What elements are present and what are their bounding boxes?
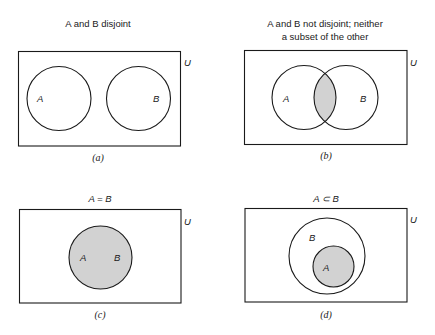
panel-a-title: A and B disjoint — [65, 18, 131, 29]
set-a-equals-b-circle — [69, 226, 132, 289]
set-b-label: B — [114, 252, 121, 263]
panel-d: A ⊂ B U B A (d) — [245, 193, 417, 321]
set-b-circle — [107, 67, 171, 131]
panel-c-sublabel: (c) — [94, 309, 106, 321]
set-b-label: B — [309, 232, 316, 243]
set-b-label: B — [153, 93, 160, 104]
universe-label: U — [410, 57, 417, 68]
set-a-circle — [313, 246, 354, 287]
universe-label: U — [184, 57, 191, 68]
universe-label: U — [184, 216, 191, 227]
set-b-label: B — [360, 93, 367, 104]
panel-c-title: A = B — [87, 193, 112, 204]
venn-diagrams-figure: A and B disjoint U A B (a) A and B not d… — [0, 0, 435, 335]
panel-b-title-line2: a subset of the other — [282, 31, 369, 42]
universe-label: U — [410, 214, 417, 225]
panel-b-title-line1: A and B not disjoint; neither — [267, 18, 383, 29]
panel-b: A and B not disjoint; neither a subset o… — [245, 18, 418, 162]
panel-a: A and B disjoint U A B (a) — [19, 18, 192, 164]
panel-c: A = B U A B (c) — [20, 193, 192, 321]
panel-a-sublabel: (a) — [92, 152, 104, 164]
panel-d-sublabel: (d) — [320, 309, 332, 321]
set-a-label: A — [322, 262, 329, 273]
set-a-label: A — [79, 252, 86, 263]
panel-b-sublabel: (b) — [320, 150, 332, 162]
panel-d-title: A ⊂ B — [312, 193, 339, 204]
set-a-label: A — [282, 93, 289, 104]
set-a-label: A — [36, 93, 43, 104]
